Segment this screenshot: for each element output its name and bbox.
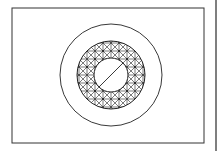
mesh-diagram (0, 0, 217, 151)
